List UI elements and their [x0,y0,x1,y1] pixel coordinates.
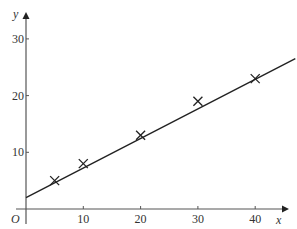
scatter-chart: 10203040102030 x y O [0,0,297,229]
axis-ticks: 10203040102030 [12,32,261,226]
x-tick-label: 10 [77,212,89,226]
x-tick-label: 20 [135,212,147,226]
y-tick-label: 20 [12,89,24,103]
x-axis-arrow-icon [282,206,289,213]
x-tick-label: 30 [192,212,204,226]
y-tick-label: 10 [12,145,24,159]
x-tick-label: 40 [249,212,261,226]
y-tick-label: 30 [12,32,24,46]
y-axis-arrow-icon [23,12,30,19]
x-marker-icon [193,97,202,106]
x-marker-icon [79,159,88,168]
x-axis-label: x [275,213,282,227]
axes [16,12,289,224]
origin-label: O [11,212,20,226]
y-axis-label: y [12,7,19,21]
